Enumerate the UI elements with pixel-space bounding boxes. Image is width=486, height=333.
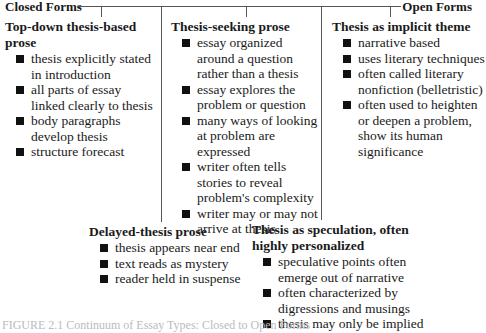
- square-bullet-icon: [16, 55, 24, 63]
- spectrum-axis-line: [78, 6, 401, 7]
- list-item: often used to heighten or deepen a probl…: [342, 97, 486, 159]
- category-delayed-thesis: Delayed-thesis prose thesis appears near…: [89, 224, 249, 287]
- list-item: often called literary nonfiction (bellet…: [342, 66, 486, 97]
- connector-delayed: [161, 6, 162, 222]
- square-bullet-icon: [100, 244, 108, 252]
- square-bullet-icon: [182, 210, 190, 218]
- connector-speculation: [321, 6, 322, 220]
- connector-implicit: [390, 6, 391, 17]
- square-bullet-icon: [182, 163, 190, 171]
- category-speculation: Thesis as speculation, often highly pers…: [252, 222, 427, 332]
- closed-forms-label: Closed Forms: [5, 0, 82, 13]
- category-top-down: Top-down thesis-based prose thesis expli…: [5, 19, 155, 160]
- category-title: Top-down thesis-based prose: [5, 19, 155, 51]
- figure-caption: FIGURE 2.1 Continuum of Essay Types: Clo…: [2, 318, 310, 333]
- square-bullet-icon: [263, 258, 271, 266]
- square-bullet-icon: [263, 289, 271, 297]
- list-item: essay organized around a question rather…: [181, 35, 321, 82]
- open-forms-label: Open Forms: [402, 0, 472, 13]
- square-bullet-icon: [16, 117, 24, 125]
- category-thesis-seeking: Thesis-seeking prose essay organized aro…: [171, 19, 321, 237]
- connector-top-down: [101, 6, 102, 17]
- category-title: Delayed-thesis prose: [89, 224, 249, 240]
- list-item: reader held in suspense: [99, 271, 249, 287]
- list-item: writer often tells stories to reveal pro…: [181, 159, 321, 206]
- list-item: speculative points often emerge out of n…: [262, 254, 427, 285]
- list-item: text reads as mystery: [99, 256, 249, 272]
- square-bullet-icon: [16, 86, 24, 94]
- list-item: often characterized by digressions and m…: [262, 285, 427, 316]
- category-title: Thesis-seeking prose: [171, 19, 321, 35]
- square-bullet-icon: [343, 101, 351, 109]
- square-bullet-icon: [100, 260, 108, 268]
- list-item: uses literary techniques: [342, 51, 486, 67]
- list-item: all parts of essay linked clearly to the…: [15, 82, 155, 113]
- category-title: Thesis as speculation, often highly pers…: [252, 222, 427, 254]
- list-item: many ways of looking at problem are expr…: [181, 113, 321, 160]
- square-bullet-icon: [343, 70, 351, 78]
- square-bullet-icon: [16, 148, 24, 156]
- list-item: thesis explicitly stated in introduction: [15, 51, 155, 82]
- list-item: thesis appears near end: [99, 240, 249, 256]
- connector-seeking: [246, 6, 247, 17]
- list-item: body paragraphs develop thesis: [15, 113, 155, 144]
- square-bullet-icon: [343, 55, 351, 63]
- category-implicit-theme: Thesis as implicit theme narrative based…: [332, 19, 486, 159]
- list-item: structure forecast: [15, 144, 155, 160]
- list-item: narrative based: [342, 35, 486, 51]
- square-bullet-icon: [343, 39, 351, 47]
- square-bullet-icon: [100, 275, 108, 283]
- square-bullet-icon: [182, 86, 190, 94]
- category-title: Thesis as implicit theme: [332, 19, 486, 35]
- list-item: essay explores the problem or question: [181, 82, 321, 113]
- square-bullet-icon: [182, 117, 190, 125]
- square-bullet-icon: [182, 39, 190, 47]
